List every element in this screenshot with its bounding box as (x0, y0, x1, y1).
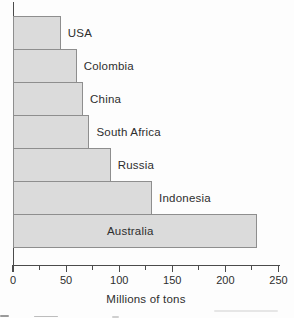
x-tick-label: 150 (163, 274, 181, 286)
bar (13, 82, 83, 116)
x-minor-tick (251, 265, 252, 270)
bar-chart-figure: USAColombiaChinaSouth AfricaRussiaIndone… (0, 0, 294, 318)
bar-label: Australia (107, 214, 154, 248)
x-tick-label: 250 (269, 274, 287, 286)
x-minor-tick (39, 265, 40, 270)
x-minor-tick (145, 265, 146, 270)
x-tick-label: 200 (216, 274, 234, 286)
x-major-tick (12, 265, 13, 272)
scan-artifact (112, 316, 119, 318)
x-major-tick (119, 265, 120, 272)
bar (13, 49, 77, 83)
bar (13, 115, 89, 149)
x-major-tick (225, 265, 226, 272)
bar (13, 16, 61, 50)
bar-label: Russia (118, 148, 154, 182)
x-minor-tick (92, 265, 93, 270)
scan-artifact (34, 316, 58, 318)
x-major-tick (66, 265, 67, 272)
x-tick-label: 100 (110, 274, 128, 286)
x-major-tick (172, 265, 173, 272)
bar-label: USA (68, 16, 92, 50)
bar-label: Indonesia (159, 181, 211, 215)
x-major-tick (278, 265, 279, 272)
bar (13, 181, 152, 215)
x-tick-label: 50 (60, 274, 72, 286)
bar-label: China (90, 82, 121, 116)
bar-label: South Africa (96, 115, 160, 149)
bar-label: Colombia (84, 49, 134, 83)
x-axis-title: Millions of tons (106, 293, 185, 305)
x-tick-label: 0 (10, 274, 16, 286)
scan-artifact (214, 310, 278, 312)
bar (13, 148, 111, 182)
x-minor-tick (198, 265, 199, 270)
scan-artifact (0, 315, 9, 317)
